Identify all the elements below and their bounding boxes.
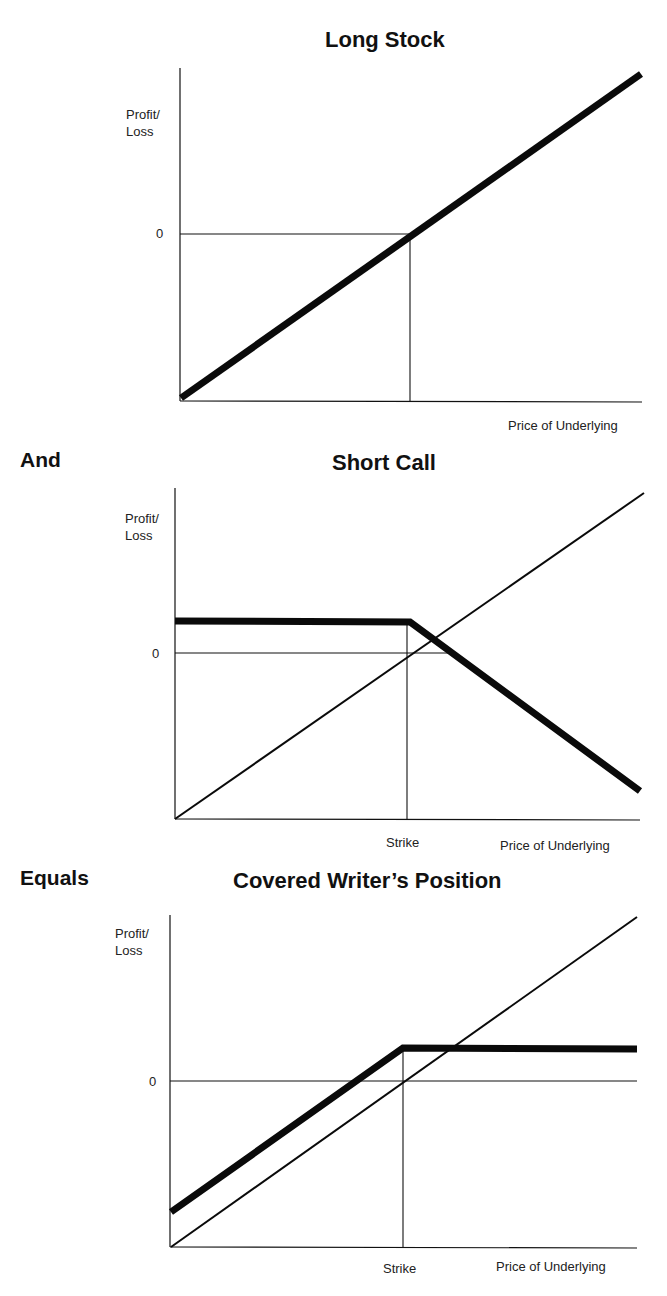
reference-line	[171, 917, 637, 1247]
payoff-line	[181, 74, 641, 398]
reference-line	[175, 493, 644, 819]
plot-canvas	[0, 0, 667, 1296]
x-axis	[180, 401, 642, 402]
x-axis	[170, 1247, 637, 1248]
x-axis	[175, 819, 640, 820]
payoff-line	[171, 1048, 637, 1212]
